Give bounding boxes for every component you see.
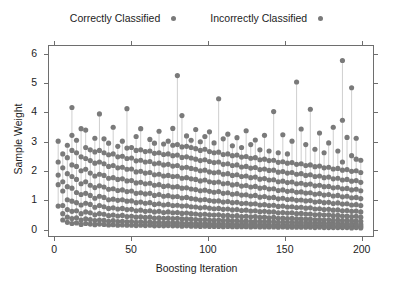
data-point <box>225 199 230 204</box>
data-point <box>106 152 111 157</box>
data-point <box>253 193 258 198</box>
data-point <box>344 167 349 172</box>
data-point <box>175 210 180 215</box>
data-point <box>179 211 184 216</box>
data-point <box>198 168 203 173</box>
x-tick-label: 50 <box>111 243 151 255</box>
data-point <box>248 142 253 147</box>
data-point <box>129 207 134 212</box>
data-point <box>312 217 317 222</box>
legend-entry-correctly-classified[interactable]: Correctly Classified <box>70 12 176 24</box>
legend-entry-incorrectly-classified[interactable]: Incorrectly Classified <box>210 12 323 24</box>
data-point <box>354 178 359 183</box>
data-point <box>179 195 184 200</box>
data-point <box>207 149 212 154</box>
data-point <box>92 212 97 217</box>
data-point <box>285 197 290 202</box>
data-point <box>88 147 93 152</box>
data-point <box>216 150 221 155</box>
data-point <box>129 219 134 224</box>
data-point <box>289 179 294 184</box>
data-point <box>207 217 212 222</box>
data-point <box>79 217 84 222</box>
data-point <box>60 188 65 193</box>
data-point <box>239 201 244 206</box>
data-point <box>143 201 148 206</box>
data-point <box>253 137 258 142</box>
x-tick-bottom <box>362 237 363 241</box>
data-point <box>60 211 65 216</box>
data-point <box>198 139 203 144</box>
data-point <box>271 177 276 182</box>
data-point <box>340 194 345 199</box>
data-point <box>335 217 340 222</box>
data-point <box>79 181 84 186</box>
data-point <box>170 153 175 158</box>
data-point <box>221 218 226 223</box>
data-point <box>198 188 203 193</box>
data-point <box>193 197 198 202</box>
data-point <box>111 163 116 168</box>
data-point <box>134 180 139 185</box>
data-point <box>257 177 262 182</box>
data-point <box>211 218 216 223</box>
data-point <box>106 206 111 211</box>
data-point <box>60 217 65 222</box>
data-point <box>120 206 125 211</box>
data-point <box>248 166 253 171</box>
y-tick-right <box>374 230 378 231</box>
data-point <box>244 183 249 188</box>
data-point <box>340 159 345 164</box>
x-tick-bottom <box>285 237 286 241</box>
data-point <box>262 166 267 171</box>
data-point <box>276 216 281 221</box>
data-point <box>280 215 285 220</box>
data-point <box>257 209 262 214</box>
data-point <box>266 168 271 173</box>
data-point <box>216 198 221 203</box>
data-point <box>189 211 194 216</box>
data-point <box>175 163 180 168</box>
data-point <box>354 136 359 141</box>
data-point <box>216 179 221 184</box>
data-point <box>92 161 97 166</box>
data-point <box>326 192 331 197</box>
data-point <box>317 212 322 217</box>
data-point <box>161 152 166 157</box>
data-point <box>331 218 336 223</box>
data-point <box>143 215 148 220</box>
data-point <box>280 169 285 174</box>
data-point <box>202 205 207 210</box>
data-point <box>211 213 216 218</box>
data-point <box>184 144 189 149</box>
data-point <box>143 220 148 225</box>
data-point <box>344 135 349 140</box>
data-point <box>69 162 74 167</box>
data-point <box>97 194 102 199</box>
data-point <box>216 217 221 222</box>
data-point <box>138 158 143 163</box>
data-point <box>299 181 304 186</box>
data-point <box>271 203 276 208</box>
data-point <box>257 202 262 207</box>
data-point <box>60 151 65 156</box>
x-tick-top <box>208 41 209 45</box>
data-point <box>60 179 65 184</box>
data-point <box>335 207 340 212</box>
data-point <box>202 217 207 222</box>
data-point <box>161 210 166 215</box>
data-point <box>179 216 184 221</box>
data-point <box>88 202 93 207</box>
data-point <box>83 216 88 221</box>
data-point <box>166 162 171 167</box>
data-point <box>248 214 253 219</box>
data-point <box>280 210 285 215</box>
data-point <box>65 143 70 148</box>
data-point <box>280 132 285 137</box>
data-point <box>262 215 267 220</box>
data-point <box>92 173 97 178</box>
data-point <box>344 208 349 213</box>
data-point <box>147 148 152 153</box>
data-point <box>285 161 290 166</box>
data-point <box>156 192 161 197</box>
